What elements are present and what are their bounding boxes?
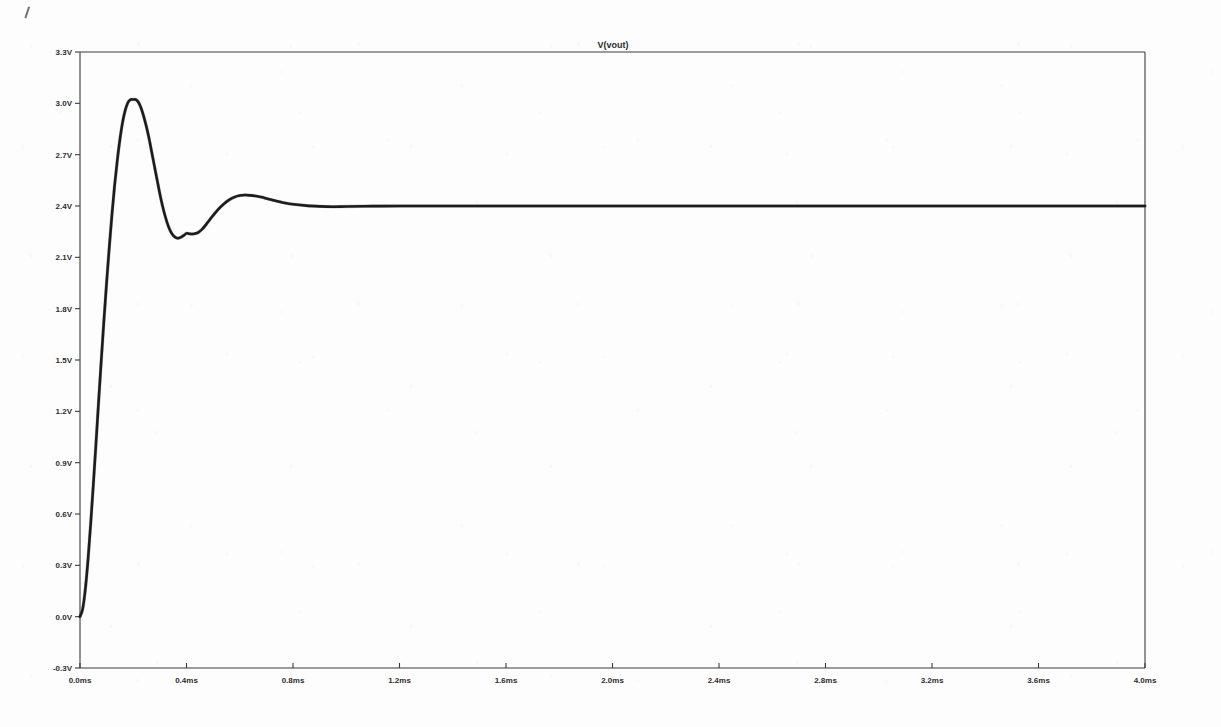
- y-tick-label: 0.0V: [56, 613, 73, 622]
- x-axis-ticks: 0.0ms0.4ms0.8ms1.2ms1.6ms2.0ms2.4ms2.8ms…: [69, 663, 1157, 685]
- y-tick-label: 1.2V: [56, 407, 73, 416]
- y-tick-label: 0.3V: [56, 561, 73, 570]
- waveform-plot-panel: 3.3V3.0V2.7V2.4V2.1V1.8V1.5V1.2V0.9V0.6V…: [0, 0, 1221, 727]
- x-tick-label: 3.6ms: [1027, 676, 1050, 685]
- y-tick-label: 2.7V: [56, 151, 73, 160]
- x-tick-label: 2.0ms: [601, 676, 624, 685]
- y-tick-label: -0.3V: [53, 664, 73, 673]
- waveform-chart[interactable]: 3.3V3.0V2.7V2.4V2.1V1.8V1.5V1.2V0.9V0.6V…: [0, 0, 1221, 727]
- y-tick-label: 2.4V: [56, 202, 73, 211]
- y-tick-label: 3.0V: [56, 99, 73, 108]
- scanned-page: 3.3V3.0V2.7V2.4V2.1V1.8V1.5V1.2V0.9V0.6V…: [0, 0, 1221, 727]
- y-tick-label: 1.5V: [56, 356, 73, 365]
- x-tick-label: 2.8ms: [814, 676, 837, 685]
- x-tick-label: 4.0ms: [1134, 676, 1157, 685]
- y-tick-label: 2.1V: [56, 253, 73, 262]
- x-tick-label: 3.2ms: [921, 676, 944, 685]
- plot-axes: [80, 52, 1145, 668]
- x-tick-label: 0.4ms: [175, 676, 198, 685]
- y-tick-label: 0.6V: [56, 510, 73, 519]
- waveform-trace-halo: [80, 99, 1145, 616]
- waveform-trace[interactable]: [80, 99, 1145, 616]
- x-tick-label: 1.6ms: [495, 676, 518, 685]
- y-tick-label: 3.3V: [56, 48, 73, 57]
- y-tick-label: 0.9V: [56, 459, 73, 468]
- y-tick-label: 1.8V: [56, 305, 73, 314]
- x-tick-label: 1.2ms: [388, 676, 411, 685]
- x-tick-label: 0.0ms: [69, 676, 92, 685]
- x-tick-label: 2.4ms: [708, 676, 731, 685]
- x-tick-label: 0.8ms: [282, 676, 305, 685]
- y-axis-ticks: 3.3V3.0V2.7V2.4V2.1V1.8V1.5V1.2V0.9V0.6V…: [53, 48, 80, 673]
- plot-title: V(vout): [598, 40, 629, 50]
